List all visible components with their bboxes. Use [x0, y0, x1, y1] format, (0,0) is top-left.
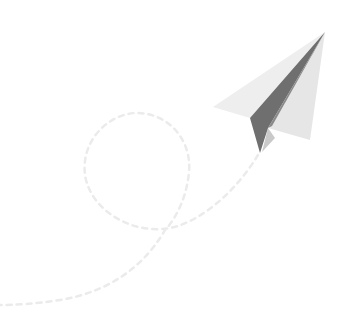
dashed-flight-path [0, 113, 258, 305]
paper-airplane-icon [213, 32, 325, 153]
paper-airplane-illustration: Paper airplane flying with a looping das… [0, 0, 348, 323]
